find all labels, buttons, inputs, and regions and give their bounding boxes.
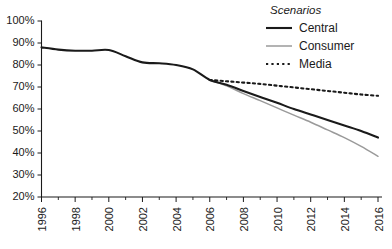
y-tick-label: 60% [12, 102, 34, 114]
y-tick-label: 90% [12, 36, 34, 48]
x-tick-label: 2012 [305, 207, 317, 231]
y-tick-label: 30% [12, 168, 34, 180]
x-tick-label: 1998 [70, 207, 82, 231]
chart-canvas: 20%30%40%50%60%70%80%90%100%199619982000… [0, 0, 392, 249]
x-tick-label: 2016 [373, 207, 385, 231]
y-tick-label: 80% [12, 58, 34, 70]
y-tick-label: 70% [12, 80, 34, 92]
x-tick-label: 2004 [171, 207, 183, 231]
x-tick-label: 2000 [103, 207, 115, 231]
x-tick-label: 2014 [339, 207, 351, 231]
y-tick-label: 20% [12, 190, 34, 202]
y-tick-label: 100% [6, 14, 34, 26]
x-tick-label: 2010 [272, 207, 284, 231]
legend-label-consumer: Consumer [299, 39, 354, 53]
x-tick-label: 2006 [204, 207, 216, 231]
legend-label-central: Central [299, 21, 338, 35]
y-tick-label: 40% [12, 146, 34, 158]
line-chart: 20%30%40%50%60%70%80%90%100%199619982000… [0, 0, 392, 249]
x-tick-label: 2008 [238, 207, 250, 231]
y-tick-label: 50% [12, 124, 34, 136]
x-tick-label: 2002 [137, 207, 149, 231]
series-line-consumer [210, 80, 378, 156]
legend-label-media: Media [299, 57, 332, 71]
legend-title: Scenarios [270, 4, 321, 16]
x-tick-label: 1996 [36, 207, 48, 231]
